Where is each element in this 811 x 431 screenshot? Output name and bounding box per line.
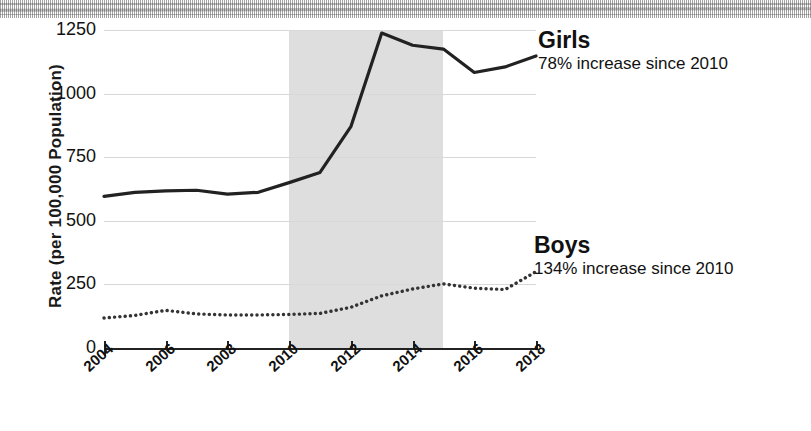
girls-series-annotation: Girls 78% increase since 2010 bbox=[538, 28, 728, 75]
y-tick-label-500: 500 bbox=[40, 211, 96, 229]
boys-series-annotation: Boys 134% increase since 2010 bbox=[534, 233, 733, 280]
y-tick-label-250: 250 bbox=[40, 274, 96, 292]
line-chart: Rate (per 100,000 Population) 0250500750… bbox=[0, 0, 811, 431]
plot-area bbox=[104, 30, 536, 348]
boys-increase-text: 134% increase since 2010 bbox=[534, 259, 733, 279]
series-layer bbox=[104, 30, 536, 348]
series-line-girls bbox=[104, 33, 536, 196]
girls-label: Girls bbox=[538, 28, 728, 52]
y-tick-label-1000: 1000 bbox=[40, 84, 96, 102]
series-line-boys bbox=[104, 272, 536, 318]
girls-increase-text: 78% increase since 2010 bbox=[538, 54, 728, 74]
y-tick-label-750: 750 bbox=[40, 147, 96, 165]
y-tick-label-1250: 1250 bbox=[40, 20, 96, 38]
boys-label: Boys bbox=[534, 233, 733, 257]
